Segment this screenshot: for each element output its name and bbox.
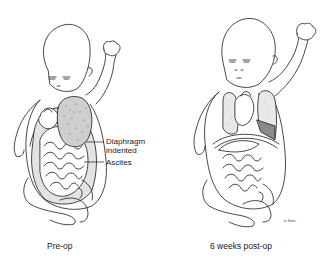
diaphragm-label-line1: Diaphragm: [106, 137, 145, 146]
diaphragm-label-line2: indented: [106, 146, 145, 155]
post-op-illustration: w. Snow 6 weeks post-op: [163, 0, 327, 258]
diaphragm-label: Diaphragm indented: [106, 137, 145, 155]
post-op-caption: 6 weeks post-op: [210, 241, 272, 251]
ascites-label: Ascites: [106, 158, 132, 167]
pre-op-illustration: Diaphragm indented Ascites Pre-op: [0, 0, 163, 258]
infant-post-op-drawing: [163, 0, 327, 230]
pre-op-caption: Pre-op: [47, 241, 73, 251]
infant-pre-op-drawing: [0, 0, 163, 230]
artist-signature: w. Snow: [284, 219, 295, 223]
